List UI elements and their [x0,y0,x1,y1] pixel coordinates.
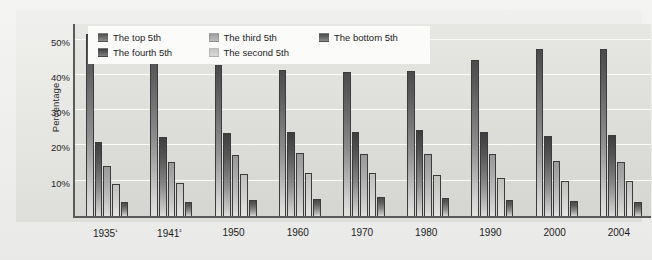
x-axis-tick-label: 1960 [287,227,309,238]
legend-row-1: The top 5th The third 5th The bottom 5th [98,30,422,45]
bar [536,49,544,216]
y-axis-tick-label: 20% [36,142,70,153]
bar [442,198,450,216]
x-axis-tick-label: 1935¹ [93,227,117,239]
legend-swatch-fourth-fifth-icon [98,48,108,57]
gridline [75,74,651,75]
bar [223,133,231,216]
bar [416,130,424,216]
bar [343,72,351,216]
bar [240,174,248,216]
bar [424,154,432,216]
bar [112,184,120,216]
bar [150,44,158,216]
bar [287,132,295,216]
bar [185,202,193,216]
bar [489,154,497,216]
bar [561,181,569,216]
bar [296,153,304,216]
bar [634,202,642,216]
x-axis-tick-label: 1970 [351,227,373,238]
x-axis-tick-label: 1941² [157,227,181,239]
x-axis-tick-label: 1990 [479,227,501,238]
bar [471,60,479,216]
legend-swatch-bottom-fifth-icon [319,33,329,42]
legend-item-bottom-fifth: The bottom 5th [319,32,422,43]
bar [360,154,368,216]
legend-item-second-fifth: The second 5th [209,47,320,58]
legend-swatch-third-fifth-icon [209,33,219,42]
bar [626,181,634,216]
y-axis-tick-label: 10% [36,177,70,188]
legend-row-2: The fourth 5th The second 5th [98,45,422,60]
bar [168,162,176,216]
legend-label-second-fifth: The second 5th [224,47,290,58]
bar [617,162,625,216]
bar [215,65,223,216]
bar [433,175,441,216]
bar [407,71,415,216]
bar [553,161,561,216]
bar [249,200,257,216]
legend-label-third-fifth: The third 5th [224,32,277,43]
bar [176,183,184,217]
chart-legend: The top 5th The third 5th The bottom 5th… [88,26,430,64]
bar [369,173,377,216]
bar [544,136,552,216]
x-axis-tick-label: 1980 [415,227,437,238]
bar [103,166,111,216]
bar [608,135,616,216]
chart-frame: Percentage 10%20%30%40%50% 1935¹1941²195… [16,10,642,222]
legend-swatch-top-fifth-icon [98,33,108,42]
bar [279,70,287,216]
legend-swatch-second-fifth-icon [209,48,219,57]
y-axis-tick-label: 50% [36,36,70,47]
bar [570,201,578,216]
y-axis-tick-label: 40% [36,71,70,82]
x-axis-tick-label: 2004 [608,227,630,238]
y-axis-tick-label: 30% [36,107,70,118]
bar [352,132,360,216]
x-axis-tick-label: 1950 [222,227,244,238]
legend-label-top-fifth: The top 5th [113,32,161,43]
bar [95,142,103,216]
bar [232,155,240,216]
bar [159,137,167,216]
y-axis-tick-labels: 10%20%30%40%50% [32,24,70,218]
x-axis-tick-label: 2000 [544,227,566,238]
chart-figure: Percentage 10%20%30%40%50% 1935¹1941²195… [0,0,652,260]
bar [313,199,321,216]
legend-label-fourth-fifth: The fourth 5th [113,47,172,58]
bar [480,132,488,216]
bar [506,200,514,216]
legend-item-third-fifth: The third 5th [209,32,320,43]
bar [121,202,129,216]
legend-label-bottom-fifth: The bottom 5th [334,32,398,43]
bar [377,197,385,216]
legend-item-top-fifth: The top 5th [98,32,209,43]
bar [497,178,505,216]
bar [305,173,313,216]
bar [600,49,608,216]
gridline [75,109,651,110]
x-axis-tick-labels: 1935¹1941²1950196019701980199020002004 [73,223,651,247]
legend-item-fourth-fifth: The fourth 5th [98,47,209,58]
